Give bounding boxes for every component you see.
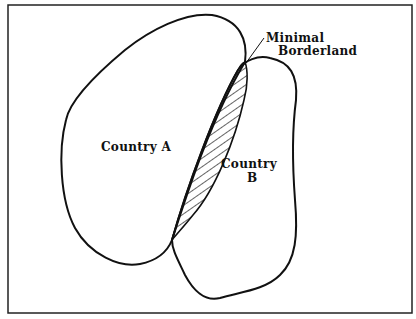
borderland-region (172, 62, 247, 240)
country-a-label: Country A (101, 141, 171, 153)
callout-label-line1: Minimal (266, 32, 324, 44)
country-b-label-line1: Country (221, 158, 277, 170)
country-b-label-line2: B (247, 172, 257, 184)
callout-leader-line (246, 38, 264, 63)
callout-label-line2: Borderland (278, 45, 357, 57)
